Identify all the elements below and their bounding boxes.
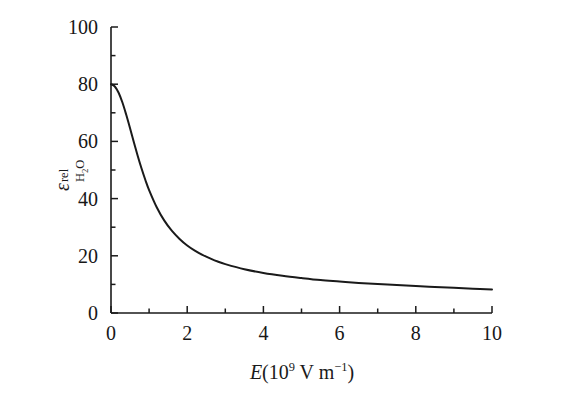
y-axis-title-subscript-o: O — [73, 160, 87, 169]
x-axis-title-variable: E — [250, 361, 262, 383]
y-axis-ticks — [111, 27, 118, 313]
x-tick-label: 2 — [182, 323, 192, 343]
y-tick-label: 40 — [0, 189, 98, 209]
x-axis-ticks — [111, 306, 492, 313]
x-tick-label: 6 — [335, 323, 345, 343]
x-tick-label: 10 — [482, 323, 502, 343]
axis-spines — [111, 27, 492, 313]
y-axis-title: ε rel H2O — [52, 153, 72, 191]
y-axis-title-subscript: H2O — [74, 160, 87, 182]
data-curve-line — [111, 84, 492, 289]
y-tick-label: 20 — [0, 246, 98, 266]
y-tick-label: 100 — [0, 17, 98, 37]
x-axis-title-units-mid: V m — [295, 361, 334, 383]
figure-container: 020406080100 0246810 E(109 V m−1) ε rel … — [0, 0, 579, 408]
y-axis-title-superscript: rel — [58, 169, 71, 182]
y-axis-title-stack: ε rel H2O — [52, 153, 72, 191]
y-axis-title-subscript-h: H — [73, 173, 87, 182]
y-tick-label: 0 — [0, 303, 98, 323]
x-axis-title-units-prefix: (10 — [262, 361, 289, 383]
y-tick-label: 80 — [0, 74, 98, 94]
x-tick-label: 4 — [258, 323, 268, 343]
y-axis-title-subscript-two: 2 — [80, 169, 90, 173]
x-axis-title-units-suffix: ) — [347, 361, 354, 383]
x-tick-label: 0 — [106, 323, 116, 343]
x-axis-title: E(109 V m−1) — [250, 362, 354, 382]
x-axis-title-exponent-2: −1 — [334, 360, 347, 374]
y-axis-title-symbol: ε — [51, 183, 73, 191]
y-tick-label: 60 — [0, 131, 98, 151]
x-tick-label: 8 — [411, 323, 421, 343]
